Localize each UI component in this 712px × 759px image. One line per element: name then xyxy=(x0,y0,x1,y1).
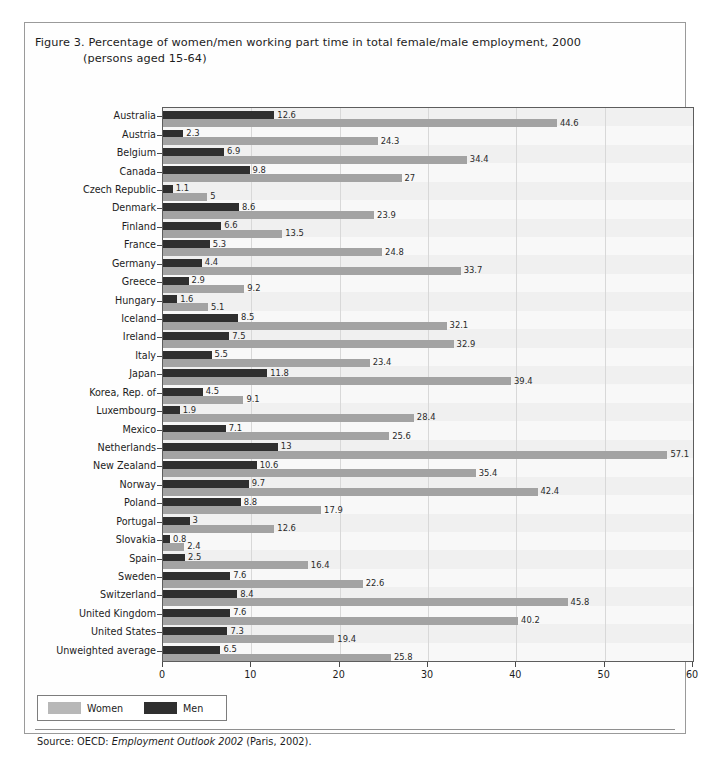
bar-women xyxy=(163,377,511,385)
category-label: Mexico xyxy=(123,424,157,435)
bar-value-women: 34.4 xyxy=(470,155,489,164)
bar-value-women: 16.4 xyxy=(311,561,330,570)
bar-women xyxy=(163,267,461,275)
bar-women xyxy=(163,322,447,330)
bar-value-women: 45.8 xyxy=(571,598,590,607)
category-tick xyxy=(157,485,162,486)
category-tick xyxy=(157,466,162,467)
bar-value-women: 24.3 xyxy=(381,137,400,146)
bar-women xyxy=(163,285,244,293)
bar-men xyxy=(163,240,210,248)
source-prefix: Source: OECD: xyxy=(37,736,112,747)
category-tick xyxy=(157,374,162,375)
category-tick xyxy=(157,651,162,652)
bar-value-women: 2.4 xyxy=(187,542,200,551)
category-axis: AustraliaAustriaBelgiumCanadaCzech Repub… xyxy=(25,107,156,662)
bar-men xyxy=(163,572,230,580)
category-tick xyxy=(157,632,162,633)
category-label: United Kingdom xyxy=(79,608,156,619)
bar-women xyxy=(163,432,389,440)
bar-women xyxy=(163,340,454,348)
category-tick xyxy=(157,301,162,302)
category-label: Poland xyxy=(124,497,156,508)
bar-men xyxy=(163,498,241,506)
x-axis-tick xyxy=(339,662,340,667)
bar-men xyxy=(163,166,250,174)
figure-title: Figure 3. Percentage of women/men workin… xyxy=(35,35,675,67)
category-tick xyxy=(157,153,162,154)
bar-value-women: 9.2 xyxy=(247,284,260,293)
bar-women xyxy=(163,303,208,311)
category-tick xyxy=(157,337,162,338)
source-suffix: (Paris, 2002). xyxy=(243,736,311,747)
legend-item-men: Men xyxy=(144,702,203,714)
bar-men xyxy=(163,351,212,359)
category-tick xyxy=(157,577,162,578)
bar-value-women: 25.6 xyxy=(392,432,411,441)
bar-value-women: 24.8 xyxy=(385,248,404,257)
bar-men xyxy=(163,111,274,119)
gridline xyxy=(605,108,606,661)
category-tick xyxy=(157,356,162,357)
bar-men xyxy=(163,461,257,469)
source-note: Source: OECD: Employment Outlook 2002 (P… xyxy=(37,736,312,747)
source-divider xyxy=(35,729,675,730)
x-axis-tick xyxy=(162,662,163,667)
x-axis-tick-label: 40 xyxy=(509,669,521,680)
category-tick xyxy=(157,614,162,615)
category-label: Finland xyxy=(122,221,156,232)
legend-swatch-women-icon xyxy=(48,702,81,714)
bar-value-women: 9.1 xyxy=(246,395,259,404)
legend-swatch-men-icon xyxy=(144,702,177,714)
category-label: France xyxy=(124,239,156,250)
bar-women xyxy=(163,211,374,219)
x-axis-tick xyxy=(427,662,428,667)
bar-men xyxy=(163,443,278,451)
bar-value-women: 42.4 xyxy=(541,487,560,496)
category-label: Portugal xyxy=(116,516,156,527)
bar-men xyxy=(163,332,229,340)
category-tick xyxy=(157,172,162,173)
bar-women xyxy=(163,156,467,164)
bar-men xyxy=(163,406,180,414)
bar-women xyxy=(163,654,391,662)
bar-men xyxy=(163,590,237,598)
category-tick xyxy=(157,190,162,191)
bar-men xyxy=(163,480,249,488)
category-tick xyxy=(157,282,162,283)
bar-men xyxy=(163,148,224,156)
category-label: Netherlands xyxy=(98,442,156,453)
bar-women xyxy=(163,488,538,496)
category-label: Slovakia xyxy=(116,534,156,545)
bar-value-women: 13.5 xyxy=(285,229,304,238)
bar-women xyxy=(163,525,274,533)
category-tick xyxy=(157,264,162,265)
x-axis-tick-label: 60 xyxy=(686,669,698,680)
bar-women xyxy=(163,451,667,459)
bar-value-women: 39.4 xyxy=(514,377,533,386)
bar-men xyxy=(163,314,238,322)
legend-label-women: Women xyxy=(87,703,123,714)
x-axis: 0102030405060 xyxy=(162,662,694,688)
bar-value-women: 28.4 xyxy=(417,413,436,422)
bar-value-women: 23.4 xyxy=(373,358,392,367)
bar-women xyxy=(163,580,363,588)
bar-women xyxy=(163,248,382,256)
category-label: Luxembourg xyxy=(96,405,156,416)
category-tick xyxy=(157,448,162,449)
category-label: Australia xyxy=(114,110,156,121)
bar-women xyxy=(163,561,308,569)
category-label: Korea, Rep. of xyxy=(89,387,156,398)
category-tick xyxy=(157,411,162,412)
x-axis-tick xyxy=(604,662,605,667)
bar-men xyxy=(163,295,177,303)
bar-men xyxy=(163,222,221,230)
bar-women xyxy=(163,414,414,422)
category-label: Norway xyxy=(120,479,156,490)
category-label: Germany xyxy=(112,258,156,269)
bar-value-women: 12.6 xyxy=(277,524,296,533)
x-axis-tick-label: 10 xyxy=(244,669,256,680)
category-label: United States xyxy=(91,626,156,637)
bar-men xyxy=(163,517,190,525)
category-label: Spain xyxy=(129,553,156,564)
